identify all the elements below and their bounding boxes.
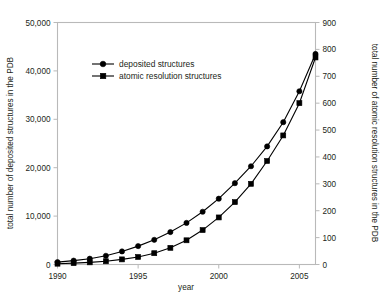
right-tick-label: 900 [323,19,337,28]
data-point-square [55,261,60,266]
data-point-square [103,259,108,264]
data-point-circle [152,237,157,242]
data-point-circle [216,196,221,201]
data-point-circle [168,229,173,234]
right-tick-label: 400 [323,153,337,162]
right-tick-label: 600 [323,99,337,108]
right-tick-label: 800 [323,45,337,54]
right-tick-label: 100 [323,234,337,243]
left-tick-label: 20,000 [25,164,50,173]
left-tick-label: 50,000 [25,19,50,28]
legend-label: atomic resolution structures [119,71,221,81]
right-tick-label: 700 [323,72,337,81]
data-point-square [313,55,318,60]
x-tick-label: 1995 [129,272,148,281]
data-point-square [120,257,125,262]
data-point-circle [265,144,270,149]
data-point-circle [136,244,141,249]
chart-figure: 010,00020,00030,00040,00050,000 01002003… [0,0,381,299]
data-point-square [281,133,286,138]
data-point-square [87,260,92,265]
x-tick-label: 1990 [48,272,67,281]
data-point-square [152,251,157,256]
legend-label: deposited structures [119,59,194,69]
data-point-circle [297,89,302,94]
data-point-circle [200,209,205,214]
data-point-square [136,254,141,259]
data-point-square [249,181,254,186]
data-point-circle [103,253,108,258]
chart-canvas: 010,00020,00030,00040,00050,000 01002003… [0,0,381,299]
data-point-square [265,158,270,163]
left-tick-label: 30,000 [25,115,50,124]
data-point-square [216,215,221,220]
data-point-square [168,245,173,250]
data-point-circle [248,164,253,169]
x-tick-label: 2005 [290,272,309,281]
data-point-circle [232,181,237,186]
left-tick-label: 10,000 [25,212,50,221]
data-point-square [184,238,189,243]
right-tick-label: 0 [323,261,328,270]
right-tick-label: 500 [323,126,337,135]
data-point-square [71,261,76,266]
y-axis-title: total number of deposited structures in … [6,56,15,229]
legend-marker-circle [100,61,106,67]
data-point-square [232,200,237,205]
right-tick-label: 200 [323,207,337,216]
data-point-circle [119,249,124,254]
data-point-square [297,101,302,106]
data-point-circle [184,220,189,225]
data-point-circle [281,120,286,125]
x-tick-label: 2000 [210,272,229,281]
legend-marker-square [100,73,105,78]
y2-axis-title: total number of atomic resolution struct… [370,44,379,243]
x-axis-title: year [178,283,194,292]
left-tick-label: 40,000 [25,67,50,76]
right-tick-label: 300 [323,180,337,189]
data-point-square [200,228,205,233]
left-tick-label: 0 [46,261,51,270]
